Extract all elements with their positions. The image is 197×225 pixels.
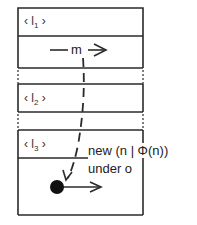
frame-label-l1: ‹ l1 ›: [24, 14, 46, 30]
frame-label-l2: ‹ l2 ›: [24, 91, 46, 107]
frame-label-l3: ‹ l3 ›: [24, 137, 46, 153]
message-label: m: [70, 42, 83, 57]
annotation-new: new (n | Φ(n)): [88, 143, 168, 158]
annotation-under: under o: [88, 161, 132, 176]
new-instance-dot: [50, 180, 64, 194]
diagram-canvas: [0, 0, 197, 225]
